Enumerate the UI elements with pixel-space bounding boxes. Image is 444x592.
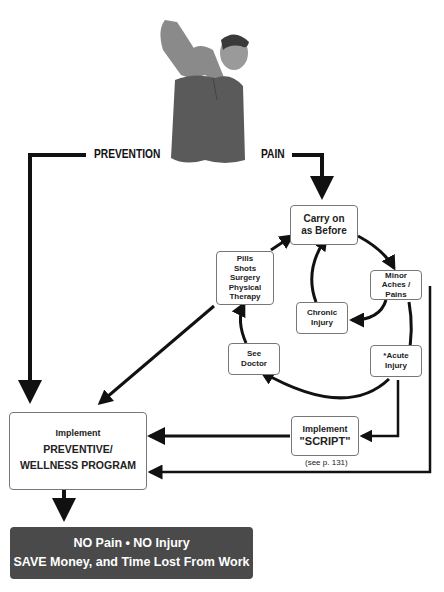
see-doctor-node: See Doctor (228, 343, 280, 375)
node-text: as Before (301, 225, 347, 237)
result-line-1: NO Pain • NO Injury (73, 534, 189, 553)
pills-node: Pills Shots Surgery Physical Therapy (216, 251, 274, 305)
script-node: Implement "SCRIPT" (291, 416, 359, 456)
wellness-program-node: Implement PREVENTIVE/ WELLNESS PROGRAM (9, 412, 147, 490)
node-text: Pills (237, 254, 253, 264)
result-line-2: SAVE Money, and Time Lost From Work (14, 553, 250, 572)
node-text: Minor (385, 271, 407, 281)
node-text: Shots (234, 264, 256, 274)
minor-aches-node: Minor Aches / Pains (370, 270, 422, 300)
node-text: Injury (311, 318, 333, 328)
carry-on-node: Carry on as Before (290, 205, 358, 245)
node-text: Physical Therapy (217, 283, 273, 302)
chronic-injury-node: Chronic Injury (296, 302, 348, 334)
flowchart: PREVENTION PAIN Carry on as Before Pills… (0, 0, 444, 592)
node-text: Surgery (230, 273, 260, 283)
node-text: Implement (55, 428, 100, 439)
script-page-note: (see p. 131) (305, 458, 348, 467)
result-box: NO Pain • NO Injury SAVE Money, and Time… (10, 527, 253, 579)
node-text: Aches / Pains (371, 280, 421, 299)
node-text: WELLNESS PROGRAM (20, 458, 136, 474)
pain-label: PAIN (261, 147, 285, 161)
node-text: See (247, 349, 261, 359)
node-text: Implement (302, 424, 347, 435)
node-text: Injury (385, 361, 407, 371)
prevention-label: PREVENTION (94, 147, 160, 161)
node-text: Doctor (241, 359, 267, 369)
node-text: PREVENTIVE/ (43, 442, 112, 458)
node-text: Carry on (303, 213, 344, 225)
acute-injury-node: *Acute Injury (370, 345, 422, 377)
node-text: "SCRIPT" (300, 435, 351, 448)
node-text: Chronic (307, 308, 337, 318)
node-text: *Acute (383, 351, 408, 361)
